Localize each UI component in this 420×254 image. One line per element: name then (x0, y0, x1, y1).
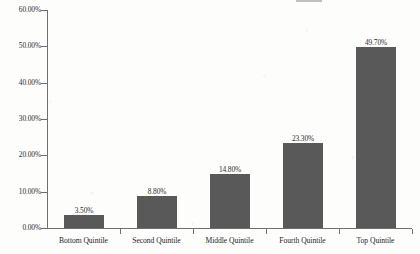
bar (283, 143, 323, 228)
x-axis-tick (339, 229, 340, 234)
y-axis-tick (41, 119, 47, 120)
bar (64, 215, 104, 228)
y-axis-tick-label-text: 20.00% (1, 150, 41, 159)
y-axis-tick-label: 20.00% (0, 150, 41, 160)
y-axis-tick-label-text: 30.00% (1, 114, 41, 123)
y-axis-tick-label-text: 10.00% (1, 187, 41, 196)
y-axis-tick-label: 60.00% (0, 5, 41, 15)
x-axis-category-label: Middle Quintile (193, 236, 266, 245)
y-axis-tick (41, 83, 47, 84)
bar-value-label: 3.50% (50, 206, 118, 215)
y-axis-tick-label-text: 0.00% (1, 223, 41, 232)
x-axis-tick (266, 229, 267, 234)
bar-value-label: 14.80% (196, 165, 264, 174)
bar-value-label: 49.70% (342, 38, 410, 47)
x-axis-category-label: Top Quintile (339, 236, 412, 245)
y-axis-tick-label: 50.00% (0, 41, 41, 51)
bar (137, 196, 177, 228)
chart-page: 0.00%10.00%20.00%30.00%40.00%50.00%60.00… (0, 0, 420, 254)
y-axis-tick-label: 40.00% (0, 78, 41, 88)
bar-value-label: 8.80% (123, 187, 191, 196)
y-axis-tick-label-text: 60.00% (1, 5, 41, 14)
y-axis-line (47, 10, 48, 229)
y-axis-tick (41, 228, 47, 229)
x-axis-tick (120, 229, 121, 234)
bar-value-label: 23.30% (269, 134, 337, 143)
y-axis-tick-label: 30.00% (0, 114, 41, 124)
x-axis-tick (412, 229, 413, 234)
bar (210, 174, 250, 228)
y-axis-tick-label-text: 40.00% (1, 78, 41, 87)
x-axis-category-label: Second Quintile (120, 236, 193, 245)
y-axis-tick (41, 46, 47, 47)
y-axis-tick-label-text: 50.00% (1, 41, 41, 50)
bar (356, 47, 396, 228)
cropped-title-sliver (296, 0, 322, 2)
y-axis-tick (41, 192, 47, 193)
x-axis-line (47, 228, 412, 229)
x-axis-category-label: Fourth Quintile (266, 236, 339, 245)
bar-chart: 0.00%10.00%20.00%30.00%40.00%50.00%60.00… (0, 0, 420, 254)
x-axis-category-label: Bottom Quintile (47, 236, 120, 245)
y-axis-tick (41, 10, 47, 11)
y-axis-tick-label: 0.00% (0, 223, 41, 233)
y-axis-tick-label: 10.00% (0, 187, 41, 197)
x-axis-tick (193, 229, 194, 234)
y-axis-tick (41, 155, 47, 156)
